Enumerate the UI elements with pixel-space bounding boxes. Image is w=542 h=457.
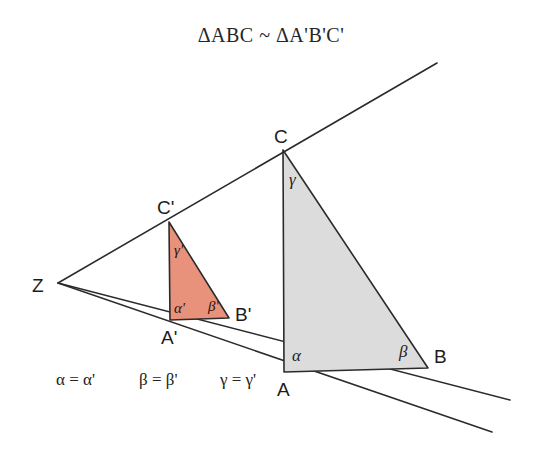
angle-label-alpha-prime: α' bbox=[174, 300, 186, 316]
ray-through-A bbox=[58, 283, 492, 432]
angle-label-beta: β bbox=[398, 342, 408, 361]
figure-title: ΔABC ~ ΔA'B'C' bbox=[198, 24, 345, 46]
angle-label-beta-prime: β' bbox=[207, 298, 219, 314]
vertex-label-B: B bbox=[434, 346, 447, 367]
equation-alpha-equality: α = α' bbox=[56, 370, 95, 389]
figure-canvas: ΔABC ~ ΔA'B'C' A B C A' B' C' Z α β γ α'… bbox=[0, 0, 542, 457]
equation-gamma-equality: γ = γ' bbox=[219, 370, 256, 389]
angle-label-alpha: α bbox=[292, 346, 302, 365]
angle-label-gamma-prime: γ' bbox=[174, 242, 184, 258]
vertex-label-C-prime: C' bbox=[157, 197, 174, 218]
vertex-label-Z: Z bbox=[32, 275, 44, 296]
vertex-label-C: C bbox=[274, 126, 288, 147]
ray-through-C bbox=[58, 63, 437, 283]
vertex-label-B-prime: B' bbox=[235, 304, 251, 325]
vertex-label-A: A bbox=[277, 379, 290, 400]
vertex-label-A-prime: A' bbox=[161, 327, 177, 348]
equation-beta-equality: β = β' bbox=[139, 370, 177, 389]
similar-triangles-figure: ΔABC ~ ΔA'B'C' A B C A' B' C' Z α β γ α'… bbox=[0, 0, 542, 457]
triangle-ABC bbox=[283, 150, 428, 372]
